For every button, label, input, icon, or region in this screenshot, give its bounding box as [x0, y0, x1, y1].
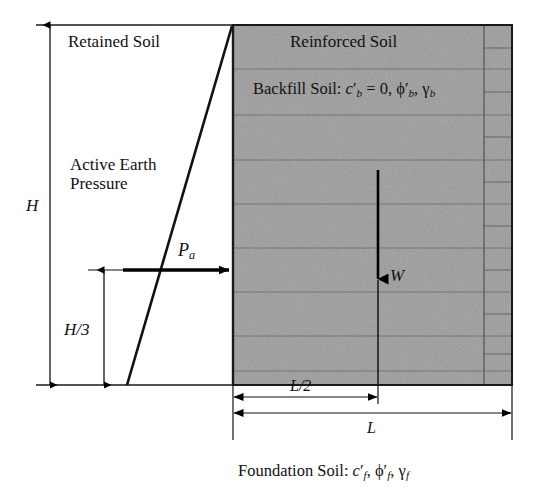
- resultant-height-label: H/3: [64, 320, 90, 339]
- backfill-friction-symbol: ϕ: [396, 79, 405, 98]
- active-thrust-subscript: a: [189, 248, 195, 262]
- wall-height-label: H: [26, 196, 38, 215]
- reinforced-soil-label: Reinforced Soil: [290, 32, 397, 51]
- foundation-unit-weight-subscript: f: [406, 469, 409, 481]
- backfill-unit-weight-symbol: γ: [422, 79, 429, 98]
- backfill-unit-weight-subscript: b: [430, 87, 436, 99]
- weight-label: W: [390, 266, 404, 285]
- active-thrust-symbol: P: [178, 240, 189, 260]
- backfill-soil-properties-label: Backfill Soil: c′b = 0, ϕ′b, γb: [253, 80, 435, 100]
- h3-dimension: [88, 270, 152, 385]
- foundation-separator-1: ,: [367, 461, 375, 480]
- diagram-svg: [0, 0, 547, 497]
- foundation-soil-properties-label: Foundation Soil: c′f, ϕ′f, γf: [238, 462, 409, 482]
- foundation-unit-weight-symbol: γ: [399, 461, 406, 480]
- foundation-prefix: Foundation Soil:: [238, 461, 353, 480]
- foundation-cohesion-symbol: c: [353, 461, 360, 480]
- active-pressure-wedge-line: [127, 26, 232, 385]
- backfill-prefix: Backfill Soil:: [253, 79, 346, 98]
- active-earth-pressure-line1: Active Earth: [70, 155, 156, 174]
- active-earth-pressure-label: Active Earth Pressure: [70, 155, 156, 193]
- active-earth-pressure-line2: Pressure: [70, 174, 156, 193]
- length-label: L: [367, 419, 376, 437]
- retained-soil-label: Retained Soil: [68, 32, 160, 51]
- active-thrust-label: Pa: [178, 240, 195, 263]
- backfill-cohesion-value: = 0,: [362, 79, 396, 98]
- half-length-label: L/2: [290, 377, 311, 395]
- foundation-friction-symbol: ϕ: [375, 461, 384, 480]
- backfill-cohesion-symbol: c: [346, 79, 353, 98]
- foundation-separator-2: ,: [390, 461, 398, 480]
- diagram-canvas: Retained Soil Reinforced Soil Active Ear…: [0, 0, 547, 497]
